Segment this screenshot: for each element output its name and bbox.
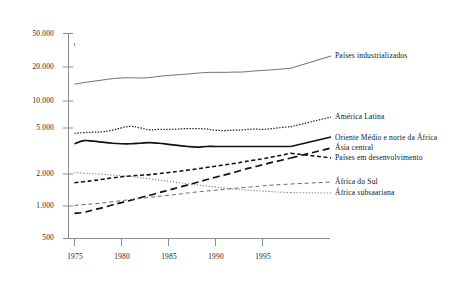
xtick-label-1985: 1985 xyxy=(149,252,189,261)
xtick-label-1980: 1980 xyxy=(102,252,142,261)
series-label-africa-subsaariana: África subsaariana xyxy=(335,188,394,197)
ytick-label-20000: 20.000 xyxy=(10,62,54,71)
series-leader-1 xyxy=(291,117,331,127)
ytick-label-2000: 2.000 xyxy=(10,169,54,178)
ytick-label-5000: 5.000 xyxy=(10,123,54,132)
xtick-label-1975: 1975 xyxy=(55,252,95,261)
series-path-group xyxy=(75,68,291,213)
series-label-oriente-medio-norte-africa: Oriente Médio e norte da África xyxy=(335,133,437,142)
series-label-asia-central: Ásia central xyxy=(335,143,373,152)
ytick-label-500: 500 xyxy=(10,233,54,242)
ytick-label-1000: 1.000 xyxy=(10,201,54,210)
series-leader-0 xyxy=(291,56,331,68)
series-line-0 xyxy=(75,68,291,84)
xtick-label-1990: 1990 xyxy=(196,252,236,261)
x-tick-marks xyxy=(75,239,263,247)
scan-speck xyxy=(74,43,75,46)
line-chart-plot xyxy=(0,0,460,285)
chart-figure: 50.000 20.000 10.000 5.000 2.000 1.000 5… xyxy=(0,0,460,285)
series-label-paises-em-desenvolvimento: Países em desenvolvimento xyxy=(335,153,423,162)
series-label-paises-industrializados: Países industrializados xyxy=(335,51,407,60)
ytick-label-10000: 10.000 xyxy=(10,96,54,105)
series-label-africa-do-sul: África do Sul xyxy=(335,177,378,186)
series-label-america-latina: América Latina xyxy=(335,112,385,121)
series-line-1 xyxy=(75,126,291,133)
series-leader-5 xyxy=(291,182,331,184)
series-line-4 xyxy=(75,153,291,183)
xtick-label-1995: 1995 xyxy=(243,252,283,261)
series-line-6 xyxy=(75,173,291,193)
series-line-3 xyxy=(75,158,291,213)
series-line-5 xyxy=(75,184,291,205)
series-line-2 xyxy=(75,140,291,147)
ytick-label-50000: 50.000 xyxy=(10,29,54,38)
series-leader-2 xyxy=(291,137,331,146)
series-leader-lines xyxy=(291,56,331,193)
